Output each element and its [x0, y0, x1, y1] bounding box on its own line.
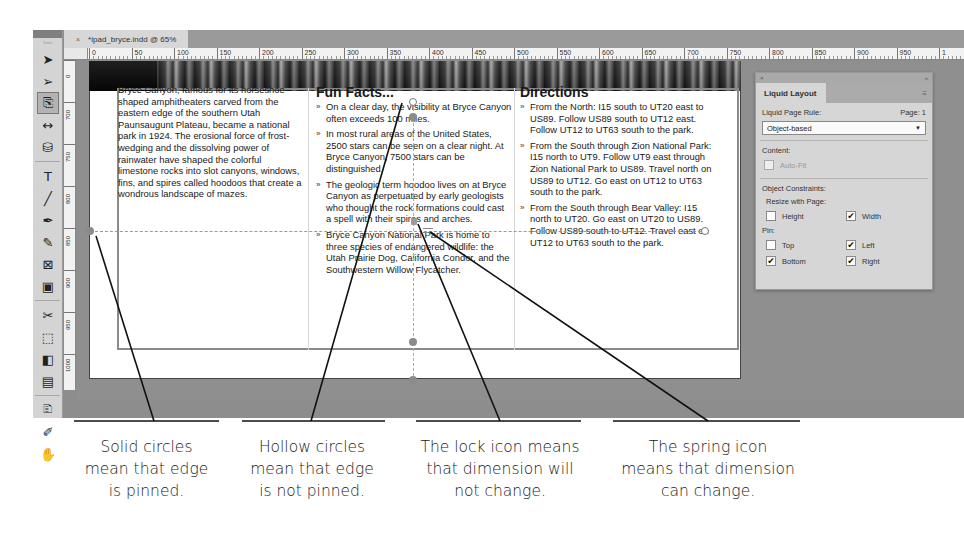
rectangle-frame-tool-icon[interactable]: ⊠ — [37, 253, 59, 275]
type-tool-icon[interactable]: T — [37, 165, 59, 187]
eyedropper-tool-icon[interactable]: ✐ — [37, 421, 59, 443]
ruler-minor-tick — [225, 56, 226, 59]
gradient-feather-tool-icon[interactable]: ▤ — [37, 370, 59, 392]
ruler-minor-tick — [102, 56, 103, 59]
ruler-minor-tick — [187, 56, 188, 59]
ruler-tick-label: 800 — [65, 194, 71, 204]
ruler-minor-tick — [871, 56, 872, 59]
column-intro[interactable]: Bryce Canyon, famous for its horseshoe-s… — [118, 84, 304, 200]
object-constraints-label: Object Constraints: — [762, 184, 826, 193]
directions-list: From the North: I15 south to UT20 east t… — [520, 101, 716, 248]
ruler-minor-tick — [178, 56, 179, 59]
ruler-minor-tick — [157, 56, 158, 59]
ruler-minor-tick — [263, 56, 264, 59]
autofit-checkbox[interactable]: Auto-Fit — [764, 160, 844, 170]
top-label: Top — [782, 241, 794, 250]
ruler-minor-tick — [506, 56, 507, 59]
bottom-checkbox[interactable]: ✔ Bottom — [766, 256, 846, 266]
ruler-minor-tick — [238, 56, 239, 59]
caption-line: Solid circles — [74, 436, 219, 458]
ruler-minor-tick — [208, 56, 209, 59]
ruler-minor-tick — [463, 56, 464, 59]
tools-panel-grip[interactable] — [33, 30, 62, 38]
ruler-minor-tick — [731, 56, 732, 59]
page-tool-icon[interactable]: ⎘ — [37, 92, 59, 114]
solid-circle-handle-left[interactable] — [86, 227, 94, 235]
ruler-minor-tick — [650, 56, 651, 59]
liquid-page-rule-select[interactable]: Object-based ▼ — [762, 121, 926, 135]
ruler-origin[interactable] — [64, 48, 88, 60]
hollow-circle-handle-top[interactable] — [409, 98, 417, 106]
ruler-minor-tick — [752, 56, 753, 59]
ruler-minor-tick — [858, 56, 859, 59]
top-checkbox[interactable]: Top — [766, 240, 846, 250]
ruler-minor-tick — [353, 56, 354, 59]
solid-circle-handle-bottom[interactable] — [409, 376, 417, 384]
ruler-minor-tick — [625, 56, 626, 59]
left-checkbox[interactable]: ✔ Left — [846, 240, 926, 250]
column-directions[interactable]: Directions From the North: I15 south to … — [520, 84, 716, 252]
ruler-minor-tick — [212, 56, 213, 59]
ruler-minor-tick — [548, 56, 549, 59]
ruler-minor-tick — [276, 56, 277, 59]
panel-title-bar[interactable]: × » — [756, 73, 932, 83]
ruler-tick-label: 0 — [65, 75, 71, 78]
gap-tool-icon[interactable]: ↔ — [37, 114, 59, 136]
hand-tool-icon[interactable]: ✋ — [37, 443, 59, 465]
ruler-tick — [64, 186, 76, 187]
direct-selection-tool-icon[interactable]: ➢ — [37, 70, 59, 92]
left-label: Left — [862, 241, 875, 250]
ruler-minor-tick — [110, 56, 111, 59]
ruler-minor-tick — [603, 56, 604, 59]
ruler-minor-tick — [357, 56, 358, 59]
caption-line: can change. — [608, 480, 808, 502]
ruler-minor-tick — [846, 56, 847, 59]
horizontal-ruler[interactable]: 0501001502002503003504004505005506006507… — [64, 48, 964, 60]
tab-liquid-layout[interactable]: Liquid Layout — [756, 83, 826, 103]
gradient-swatch-tool-icon[interactable]: ◧ — [37, 348, 59, 370]
checkbox-icon — [764, 160, 774, 170]
ruler-minor-tick — [93, 56, 94, 59]
ruler-minor-tick — [803, 56, 804, 59]
free-transform-tool-icon[interactable]: ⬚ — [37, 326, 59, 348]
height-checkbox[interactable]: Height — [766, 211, 846, 221]
lock-icon[interactable] — [411, 218, 417, 225]
rectangle-tool-icon[interactable]: ▣ — [37, 275, 59, 297]
panel-collapse-icon[interactable]: » — [925, 75, 928, 81]
pen-tool-icon[interactable]: ✒ — [37, 209, 59, 231]
ruler-minor-tick — [421, 56, 422, 59]
selection-tool-icon[interactable]: ➤ — [37, 48, 59, 70]
spring-icon[interactable] — [423, 228, 433, 233]
ruler-minor-tick — [552, 56, 553, 59]
note-tool-icon[interactable]: 🗈 — [37, 399, 59, 421]
pencil-tool-icon[interactable]: ✎ — [37, 231, 59, 253]
caption-line: means that dimension — [608, 458, 808, 480]
ruler-minor-tick — [748, 56, 749, 59]
width-checkbox[interactable]: ✔ Width — [846, 211, 926, 221]
ruler-minor-tick — [446, 56, 447, 59]
list-item: From the North: I15 south to UT20 east t… — [520, 101, 716, 136]
solid-circle-handle-top[interactable] — [409, 113, 417, 121]
hollow-circle-handle-right[interactable] — [701, 227, 709, 235]
line-tool-icon[interactable]: ╱ — [37, 187, 59, 209]
ruler-minor-tick — [314, 56, 315, 59]
panel-close-icon[interactable]: × — [760, 75, 764, 81]
ruler-minor-tick — [875, 56, 876, 59]
ruler-minor-tick — [956, 56, 957, 59]
ruler-minor-tick — [714, 56, 715, 59]
right-checkbox[interactable]: ✔ Right — [846, 256, 926, 266]
ruler-minor-tick — [693, 56, 694, 59]
close-tab-icon[interactable]: × — [76, 36, 80, 43]
solid-circle-handle-bottom-inner[interactable] — [409, 338, 417, 346]
content-collector-tool-icon[interactable]: ⛁ — [37, 136, 59, 158]
ruler-minor-tick — [765, 56, 766, 59]
ruler-minor-tick — [459, 56, 460, 59]
vertical-ruler[interactable]: 07007508008509009501000 — [64, 60, 76, 390]
caption-line: Hollow circles — [238, 436, 386, 458]
document-tab[interactable]: × *ipad_bryce.indd @ 65% — [64, 30, 188, 48]
ruler-minor-tick — [204, 56, 205, 59]
panel-menu-icon[interactable]: ≡ — [922, 83, 932, 103]
scissors-tool-icon[interactable]: ✂ — [37, 304, 59, 326]
ruler-tick-label: 750 — [65, 152, 71, 162]
ruler-minor-tick — [807, 56, 808, 59]
